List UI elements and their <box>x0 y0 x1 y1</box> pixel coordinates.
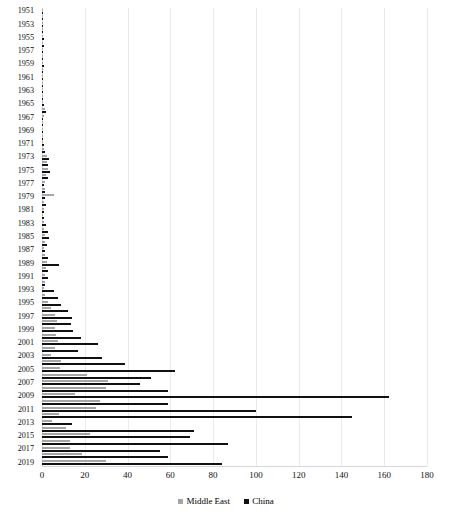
bar-middle-east <box>42 95 43 97</box>
bar-row <box>42 294 427 301</box>
bar-row <box>42 208 427 215</box>
y-axis-labels: 1951195319551957195919611963196519671969… <box>0 0 38 516</box>
bar-china <box>42 85 43 87</box>
y-axis-tick-1957: 1957 <box>18 47 34 55</box>
y-axis-tick-2001: 2001 <box>18 339 34 347</box>
bar-row <box>42 75 427 82</box>
bar-row <box>42 400 427 407</box>
y-axis-tick-2005: 2005 <box>18 366 34 374</box>
bar-china <box>42 51 43 53</box>
bar-china <box>42 158 49 160</box>
bar-china <box>42 191 45 193</box>
bar-middle-east <box>42 380 108 382</box>
bar-row <box>42 314 427 321</box>
bar-china <box>42 144 44 146</box>
bar-row <box>42 267 427 274</box>
y-axis-tick-1991: 1991 <box>18 273 34 281</box>
bar-middle-east <box>42 307 51 309</box>
bar-row <box>42 62 427 69</box>
bar-row <box>42 214 427 221</box>
bar-middle-east <box>42 354 51 356</box>
bar-china <box>42 184 44 186</box>
bar-china <box>42 317 72 319</box>
bar-china <box>42 383 140 385</box>
y-axis-tick-2019: 2019 <box>18 459 34 467</box>
bar-middle-east <box>42 427 66 429</box>
bar-row <box>42 427 427 434</box>
y-axis-tick-1971: 1971 <box>18 140 34 148</box>
bar-middle-east <box>42 214 43 216</box>
bar-middle-east <box>42 287 44 289</box>
y-axis-tick-1987: 1987 <box>18 246 34 254</box>
x-axis-tick-0: 0 <box>40 470 45 480</box>
bar-middle-east <box>42 367 60 369</box>
bar-middle-east <box>42 208 44 210</box>
legend-swatch-icon <box>244 499 249 504</box>
bar-china <box>42 357 102 359</box>
legend-item-china[interactable]: China <box>244 496 274 506</box>
bar-china <box>42 250 45 252</box>
bar-china <box>42 138 43 140</box>
bar-row <box>42 35 427 42</box>
bar-middle-east <box>42 228 44 230</box>
bar-middle-east <box>42 28 43 30</box>
bar-middle-east <box>42 88 43 90</box>
bar-china <box>42 98 43 100</box>
bar-row <box>42 161 427 168</box>
bar-row <box>42 380 427 387</box>
bar-china <box>42 337 81 339</box>
bar-chart: 1951195319551957195919611963196519671969… <box>0 0 452 516</box>
bar-china <box>42 297 58 299</box>
legend-item-middle-east[interactable]: Middle East <box>178 496 230 506</box>
bar-china <box>42 12 43 14</box>
x-axis-tick-140: 140 <box>335 470 349 480</box>
bar-row <box>42 174 427 181</box>
bar-row <box>42 141 427 148</box>
bar-middle-east <box>42 360 61 362</box>
y-axis-tick-2013: 2013 <box>18 419 34 427</box>
y-axis-tick-1985: 1985 <box>18 233 34 241</box>
bar-middle-east <box>42 48 43 50</box>
x-axis-tick-100: 100 <box>249 470 263 480</box>
bar-china <box>42 118 43 120</box>
bar-china <box>42 224 46 226</box>
chart-legend: Middle EastChina <box>0 496 452 506</box>
bar-row <box>42 15 427 22</box>
bar-middle-east <box>42 347 55 349</box>
bar-row <box>42 274 427 281</box>
y-axis-tick-2009: 2009 <box>18 392 34 400</box>
bar-row <box>42 22 427 29</box>
bar-row <box>42 155 427 162</box>
bar-middle-east <box>42 62 43 64</box>
x-axis-line <box>42 466 427 467</box>
bar-middle-east <box>42 201 44 203</box>
y-axis-tick-1993: 1993 <box>18 286 34 294</box>
y-axis-tick-1999: 1999 <box>18 326 34 334</box>
bar-row <box>42 241 427 248</box>
bar-middle-east <box>42 254 45 256</box>
bar-middle-east <box>42 247 44 249</box>
bar-middle-east <box>42 400 100 402</box>
bar-middle-east <box>42 320 57 322</box>
bar-china <box>42 304 61 306</box>
y-axis-tick-1983: 1983 <box>18 220 34 228</box>
legend-label: China <box>252 496 274 506</box>
bar-row <box>42 9 427 16</box>
bar-row <box>42 48 427 55</box>
bar-middle-east <box>42 148 44 150</box>
bar-row <box>42 68 427 75</box>
y-axis-tick-1979: 1979 <box>18 193 34 201</box>
y-axis-tick-1955: 1955 <box>18 34 34 42</box>
bar-row <box>42 28 427 35</box>
bar-china <box>42 270 48 272</box>
legend-swatch-icon <box>178 499 183 504</box>
bar-row <box>42 367 427 374</box>
bar-row <box>42 307 427 314</box>
bar-china <box>42 410 256 412</box>
bar-middle-east <box>42 294 45 296</box>
bar-middle-east <box>42 420 52 422</box>
y-axis-tick-1989: 1989 <box>18 260 34 268</box>
y-axis-tick-1969: 1969 <box>18 127 34 135</box>
bar-row <box>42 340 427 347</box>
bar-middle-east <box>42 108 45 110</box>
